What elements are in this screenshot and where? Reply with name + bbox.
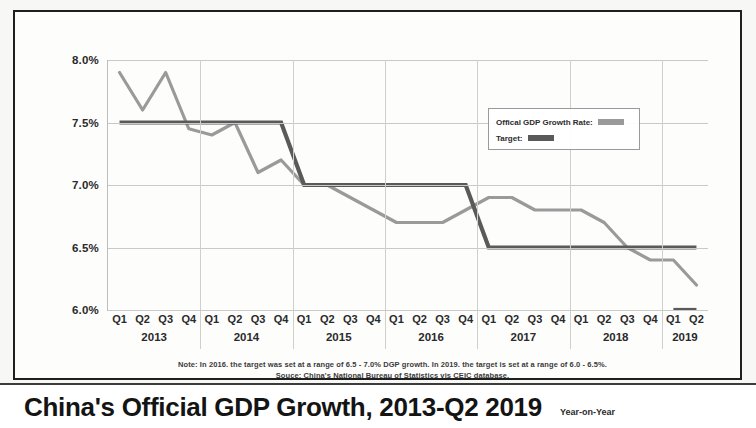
x-axis-quarter-label: Q4 [274,313,289,325]
x-axis-quarter-label: Q3 [435,313,450,325]
gridline-vertical [477,60,478,310]
x-axis-quarter-label: Q1 [666,313,681,325]
x-axis-year-label: 2018 [603,331,629,343]
x-axis-quarter-label: Q3 [158,313,173,325]
x-axis-quarter-label: Q2 [412,313,427,325]
x-axis-quarter-label: Q2 [320,313,335,325]
x-axis-quarter-label: Q2 [689,313,704,325]
gridline-vertical [570,60,571,310]
x-axis-year-label: 2017 [511,331,537,343]
gridline-horizontal [108,60,708,61]
gridline-horizontal [108,248,708,249]
note-line-1: Note: In 2016. the target was set at a r… [28,359,756,370]
gridline-vertical [662,60,663,310]
y-axis-tick-label: 6.0% [72,304,99,316]
chart-subtitle: Year-on-Year [560,407,615,417]
x-axis-year-separator [570,311,571,349]
x-axis-quarter-label: Q2 [597,313,612,325]
gridline-vertical [200,60,201,310]
x-axis-year-label: 2016 [418,331,444,343]
gridline-vertical [293,60,294,310]
y-axis-tick-label: 6.5% [72,242,99,254]
y-axis-tick-label: 7.0% [72,179,99,191]
x-axis: Q1Q2Q3Q42013Q1Q2Q3Q42014Q1Q2Q3Q42015Q1Q2… [108,311,708,357]
x-axis-year-separator [477,311,478,349]
chart-notes: Note: In 2016. the target was set at a r… [28,359,756,381]
x-axis-quarter-label: Q3 [251,313,266,325]
chart-legend: Offical GDP Growth Rate: Target: [488,108,640,150]
legend-item-official: Offical GDP Growth Rate: [496,114,632,130]
chart-frame: 8.0%7.5%7.0%6.5%6.0% Q1Q2Q3Q42013Q1Q2Q3Q… [13,10,742,380]
x-axis-quarter-label: Q3 [620,313,635,325]
x-axis-quarter-label: Q4 [643,313,658,325]
x-axis-quarter-label: Q3 [343,313,358,325]
x-axis-year-label: 2013 [141,331,167,343]
title-bar: China's Official GDP Growth, 2013-Q2 201… [0,383,756,428]
legend-swatch-target [528,135,554,141]
x-axis-quarter-label: Q2 [135,313,150,325]
y-axis-tick-label: 7.5% [72,117,99,129]
x-axis-year-separator [385,311,386,349]
x-axis-quarter-label: Q1 [481,313,496,325]
x-axis-quarter-label: Q1 [574,313,589,325]
x-axis-quarter-label: Q1 [297,313,312,325]
x-axis-quarter-label: Q1 [389,313,404,325]
plot-area: 8.0%7.5%7.0%6.5%6.0% [108,60,708,310]
legend-label-target: Target: [496,134,523,143]
x-axis-quarter-label: Q2 [228,313,243,325]
x-axis-year-separator [662,311,663,349]
gridline-horizontal [108,185,708,186]
x-axis-year-label: 2019 [672,331,698,343]
legend-swatch-official [598,119,624,125]
legend-label-official: Offical GDP Growth Rate: [496,118,593,127]
x-axis-quarter-label: Q2 [505,313,520,325]
gridline-vertical [385,60,386,310]
legend-item-target: Target: [496,130,632,146]
series-line-official-gdp-growth-rate [120,73,697,286]
x-axis-year-separator [200,311,201,349]
x-axis-quarter-label: Q4 [366,313,381,325]
x-axis-quarter-label: Q3 [528,313,543,325]
x-axis-quarter-label: Q4 [458,313,473,325]
chart-page: 8.0%7.5%7.0%6.5%6.0% Q1Q2Q3Q42013Q1Q2Q3Q… [0,0,756,428]
note-line-2: Souce: China's National Bureau of Statis… [28,370,756,381]
x-axis-quarter-label: Q1 [112,313,127,325]
x-axis-year-label: 2015 [326,331,352,343]
x-axis-quarter-label: Q4 [551,313,566,325]
x-axis-quarter-label: Q1 [205,313,220,325]
x-axis-year-label: 2014 [234,331,260,343]
page-title: China's Official GDP Growth, 2013-Q2 201… [24,392,542,423]
y-axis-tick-label: 8.0% [72,54,99,66]
x-axis-quarter-label: Q4 [181,313,196,325]
x-axis-year-separator [293,311,294,349]
